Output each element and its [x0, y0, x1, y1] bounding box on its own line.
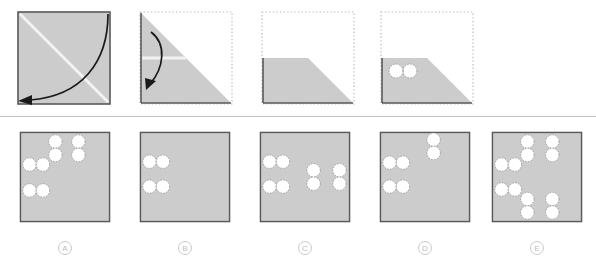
hole	[333, 164, 346, 177]
hole	[156, 155, 169, 168]
fold-step-1	[16, 10, 112, 106]
hole	[546, 135, 559, 148]
option-paper	[260, 132, 349, 221]
option-e-label[interactable]: E	[530, 241, 544, 255]
hole	[396, 156, 409, 169]
puzzle-figure: A B C D E	[0, 0, 596, 264]
hole	[276, 180, 289, 193]
hole	[49, 135, 62, 148]
option-a-label[interactable]: A	[58, 241, 72, 255]
option-c-panel[interactable]	[259, 131, 351, 223]
fold-step-2-graphic	[138, 10, 238, 110]
hole	[396, 180, 409, 193]
paper-trapezoid	[263, 58, 353, 103]
fold-step-1-graphic	[16, 10, 112, 106]
hole	[495, 158, 508, 171]
section-divider	[0, 116, 596, 117]
hole	[49, 148, 62, 161]
hole	[521, 206, 534, 219]
hole	[521, 148, 534, 161]
hole	[546, 192, 559, 205]
fold-step-4	[379, 10, 479, 110]
hole	[427, 146, 440, 159]
paper-trapezoid	[382, 58, 472, 103]
hole	[383, 156, 396, 169]
option-d-graphic	[379, 131, 471, 223]
hole	[521, 192, 534, 205]
fold-step-4-graphic	[379, 10, 479, 110]
hole	[383, 180, 396, 193]
option-paper	[20, 132, 109, 221]
option-d-panel[interactable]	[379, 131, 471, 223]
hole	[23, 184, 36, 197]
fold-step-3	[260, 10, 360, 110]
hole	[156, 180, 169, 193]
hole	[263, 155, 276, 168]
hole	[508, 183, 521, 196]
option-c-label[interactable]: C	[298, 241, 312, 255]
option-paper	[380, 132, 469, 221]
hole	[508, 158, 521, 171]
option-a-panel[interactable]	[19, 131, 111, 223]
option-paper	[492, 132, 581, 221]
option-e-graphic	[491, 131, 583, 223]
hole	[23, 158, 36, 171]
hole	[72, 135, 85, 148]
option-b-label[interactable]: B	[178, 241, 192, 255]
hole	[72, 148, 85, 161]
option-e-panel[interactable]	[491, 131, 583, 223]
fold-step-3-graphic	[260, 10, 360, 110]
hole	[307, 177, 320, 190]
hole	[36, 184, 49, 197]
hole	[546, 148, 559, 161]
option-a-graphic	[19, 131, 111, 223]
hole	[143, 180, 156, 193]
hole	[307, 164, 320, 177]
option-c-graphic	[259, 131, 351, 223]
hole	[333, 177, 346, 190]
hole	[276, 155, 289, 168]
option-b-graphic	[139, 131, 231, 223]
hole	[521, 135, 534, 148]
option-paper	[140, 132, 229, 221]
option-d-label[interactable]: D	[418, 241, 432, 255]
hole	[546, 206, 559, 219]
hole	[495, 183, 508, 196]
hole	[143, 155, 156, 168]
fold-step-2	[138, 10, 238, 110]
hole	[263, 180, 276, 193]
hole	[36, 158, 49, 171]
option-b-panel[interactable]	[139, 131, 231, 223]
hole	[427, 133, 440, 146]
